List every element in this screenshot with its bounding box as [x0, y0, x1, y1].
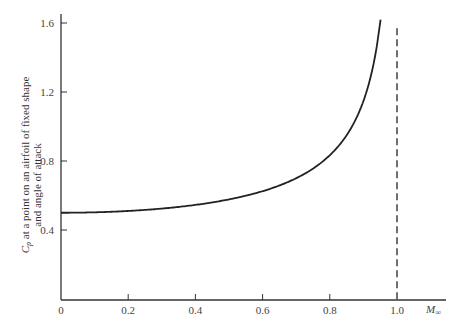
axes [61, 14, 446, 300]
y-axis-label-line2: and angle of attack [31, 143, 43, 227]
x-tick-label: 0 [58, 304, 64, 316]
x-tick-label: 1.0 [390, 304, 404, 316]
x-tick-label: 0.6 [256, 304, 270, 316]
x-tick-label: 0.8 [323, 304, 337, 316]
x-tick-label: 0.2 [121, 304, 135, 316]
y-tick-label: 1.2 [40, 86, 54, 98]
x-axis-label: M∞ [425, 303, 441, 317]
y-axis-label: Cp at a point on an airfoil of fixed sha… [19, 77, 43, 254]
cp-curve [61, 20, 381, 213]
chart: 00.20.40.60.81.0 0.40.81.21.6 M∞ Cp at a… [0, 0, 458, 329]
y-ticks: 0.40.81.21.6 [40, 17, 67, 236]
x-tick-label: 0.4 [189, 304, 203, 316]
x-ticks: 00.20.40.60.81.0 [58, 294, 404, 316]
y-tick-label: 1.6 [40, 17, 54, 29]
